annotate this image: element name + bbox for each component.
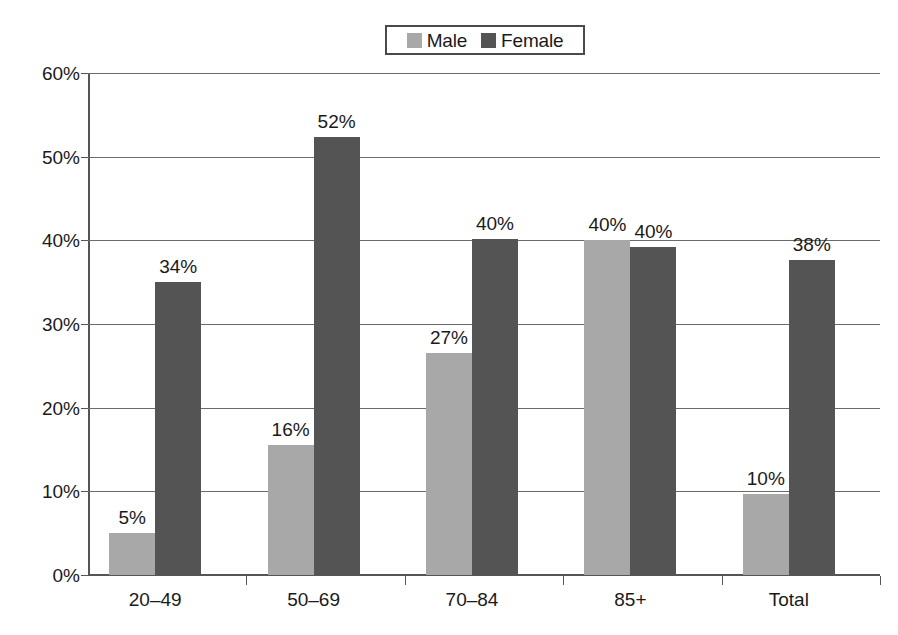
y-axis-tick-label: 60% — [10, 64, 80, 83]
x-axis-tick-mark — [246, 576, 247, 585]
x-axis-category-label: 70–84 — [386, 590, 558, 609]
bar-value-label: 40% — [618, 222, 688, 241]
bar-value-label: 34% — [143, 257, 213, 276]
gridline — [88, 73, 880, 74]
x-axis-tick-mark — [405, 576, 406, 585]
x-axis-category-label: 50–69 — [228, 590, 400, 609]
bar-male-Total — [743, 494, 789, 575]
y-axis-tick-label: 0% — [10, 566, 80, 585]
legend-label-female: Female — [501, 31, 563, 50]
bar-male-85+ — [584, 240, 630, 575]
bar-chart: Male Female 0%10%20%30%40%50%60% 5%34%16… — [0, 0, 898, 635]
legend-entry-female: Female — [481, 31, 563, 50]
y-axis-tick-label: 20% — [10, 399, 80, 418]
bar-male-20–49 — [109, 533, 155, 575]
legend-swatch-male-icon — [407, 33, 422, 48]
bar-male-70–84 — [426, 353, 472, 575]
plot-area: 5%34%16%52%27%40%40%40%10%38% — [88, 73, 880, 575]
legend-swatch-female-icon — [481, 33, 496, 48]
y-axis-tick-label: 50% — [10, 148, 80, 167]
bar-female-85+ — [630, 247, 676, 575]
x-axis-tick-mark — [722, 576, 723, 585]
bar-value-label: 52% — [302, 112, 372, 131]
bar-female-70–84 — [472, 239, 518, 575]
x-axis-category-label: 20–49 — [69, 590, 241, 609]
bar-value-label: 40% — [460, 214, 530, 233]
bar-male-50–69 — [268, 445, 314, 575]
gridline — [88, 157, 880, 158]
x-axis-tick-mark — [563, 576, 564, 585]
x-axis-category-label: Total — [703, 590, 875, 609]
bar-female-50–69 — [314, 137, 360, 575]
y-axis-tick-label: 10% — [10, 482, 80, 501]
y-axis-labels: 0%10%20%30%40%50%60% — [0, 0, 80, 635]
y-axis-tick-label: 40% — [10, 231, 80, 250]
y-axis-tick-label: 30% — [10, 315, 80, 334]
chart-legend: Male Female — [385, 25, 585, 55]
bar-female-20–49 — [155, 282, 201, 575]
x-axis-category-label: 85+ — [544, 590, 716, 609]
legend-entry-male: Male — [407, 31, 467, 50]
legend-label-male: Male — [427, 31, 467, 50]
x-axis-tick-mark — [880, 576, 881, 585]
bar-female-Total — [789, 260, 835, 575]
bar-value-label: 38% — [777, 235, 847, 254]
